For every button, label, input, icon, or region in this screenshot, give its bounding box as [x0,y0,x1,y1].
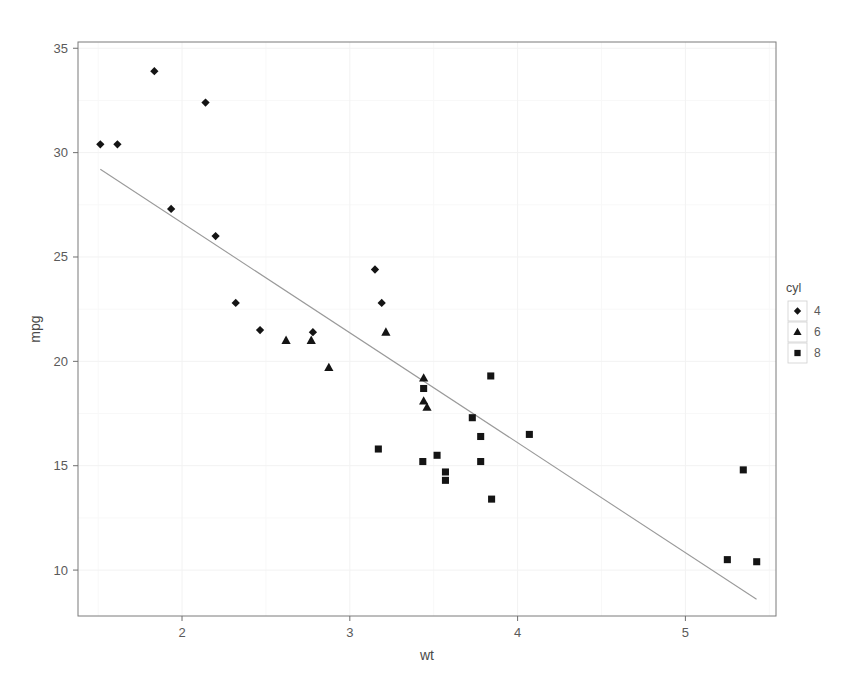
x-tick-label: 2 [178,625,185,640]
y-axis-title: mpg [27,315,43,342]
data-point-marker-square [420,385,427,392]
data-point-marker-square [487,372,494,379]
x-tick-label: 4 [514,625,521,640]
data-point-marker-square [434,452,441,459]
x-tick-label: 5 [682,625,689,640]
data-point-marker-square [724,556,731,563]
y-tick-label: 25 [54,249,68,264]
figure-background [0,0,860,678]
x-tick-label: 3 [346,625,353,640]
data-point-marker-square [442,477,449,484]
data-point-marker-square [526,431,533,438]
data-point-marker-square [477,433,484,440]
x-axis-title: wt [419,647,434,663]
y-tick-label: 10 [54,563,68,578]
data-point-marker-square [740,466,747,473]
data-point-marker-square [477,458,484,465]
legend-label-8: 8 [814,346,821,360]
y-tick-label: 15 [54,458,68,473]
y-tick-label: 30 [54,145,68,160]
data-point-marker-square [488,496,495,503]
data-point-marker-square [419,458,426,465]
chart-canvas: 101520253035 2345 wt mpg cyl 468 [0,0,860,678]
legend-items: 468 [788,301,821,363]
data-point-marker-square [375,445,382,452]
data-point-marker-square [794,350,800,356]
y-tick-label: 20 [54,354,68,369]
y-tick-label: 35 [54,41,68,56]
legend-label-4: 4 [814,304,821,318]
data-point-marker-square [469,414,476,421]
data-point-marker-square [442,468,449,475]
legend-title: cyl [786,281,801,295]
scatter-plot-figure: 101520253035 2345 wt mpg cyl 468 [0,0,860,678]
legend-label-6: 6 [814,325,821,339]
data-point-marker-square [753,558,760,565]
